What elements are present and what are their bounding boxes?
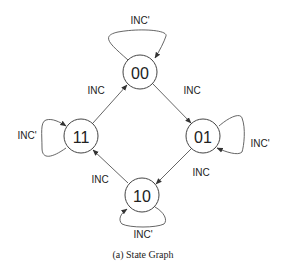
self-loop-01: INC' bbox=[217, 116, 270, 154]
transition-10-to-11: INC bbox=[91, 150, 128, 185]
transition-00-to-01: INC bbox=[153, 84, 201, 123]
state-node-01: 01 bbox=[186, 119, 220, 153]
node-label: 00 bbox=[131, 65, 149, 82]
figure-caption: (a) State Graph bbox=[112, 249, 173, 261]
edge-line bbox=[156, 149, 191, 184]
loop-label: INC' bbox=[250, 138, 269, 149]
state-node-11: 11 bbox=[64, 119, 98, 153]
edge-label: INC bbox=[192, 167, 209, 178]
loop-label: INC' bbox=[130, 15, 149, 26]
edge-label: INC bbox=[87, 85, 104, 96]
node-label: 11 bbox=[73, 129, 90, 146]
loop-path bbox=[217, 116, 244, 154]
loop-label: INC' bbox=[133, 229, 152, 240]
loop-path bbox=[42, 119, 66, 156]
edge-label: INC bbox=[183, 85, 200, 96]
state-node-10: 10 bbox=[125, 178, 159, 212]
transition-11-to-00: INC bbox=[87, 85, 127, 124]
node-label: 10 bbox=[133, 188, 151, 205]
loop-label: INC' bbox=[17, 130, 36, 141]
self-loop-11: INC' bbox=[17, 119, 66, 156]
self-loop-00: INC' bbox=[109, 15, 167, 61]
state-node-00: 00 bbox=[123, 55, 157, 89]
transition-01-to-10: INC bbox=[156, 149, 210, 184]
edge-label: INC bbox=[91, 174, 108, 185]
node-label: 01 bbox=[194, 129, 212, 146]
state-graph: INC INC INC INC INC' INC' INC' INC' 00 bbox=[0, 0, 286, 268]
